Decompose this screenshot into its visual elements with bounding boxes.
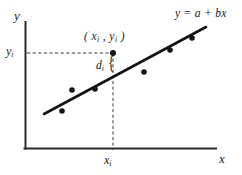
x-axis-label: x bbox=[219, 152, 225, 165]
residual-brace-icon: { bbox=[108, 54, 114, 72]
x-tick-label-subscript: i bbox=[109, 159, 111, 168]
regression-figure: y x yi xi y = a + bx ( xi , yi ) di { bbox=[0, 0, 242, 175]
point-label-separator: , y bbox=[100, 30, 115, 42]
scatter-points bbox=[59, 35, 195, 114]
data-point bbox=[69, 87, 75, 93]
y-axis-label: y bbox=[14, 9, 20, 22]
data-point bbox=[141, 69, 147, 75]
x-tick-label-xi: xi bbox=[104, 154, 112, 168]
regression-line bbox=[44, 27, 206, 114]
point-label-close: ) bbox=[117, 30, 125, 42]
residual-label: di bbox=[96, 60, 104, 72]
data-point bbox=[92, 86, 98, 92]
equation-label: y = a + bx bbox=[175, 8, 227, 20]
residual-label-subscript: i bbox=[102, 64, 104, 73]
point-coordinate-label: ( xi , yi ) bbox=[84, 31, 125, 43]
plot-canvas bbox=[0, 0, 242, 175]
point-label-open: ( x bbox=[84, 30, 97, 42]
data-point bbox=[189, 35, 195, 41]
y-tick-label-yi: yi bbox=[6, 45, 14, 59]
y-tick-label-subscript: i bbox=[11, 50, 13, 59]
data-point bbox=[59, 108, 65, 114]
data-point bbox=[167, 47, 173, 53]
